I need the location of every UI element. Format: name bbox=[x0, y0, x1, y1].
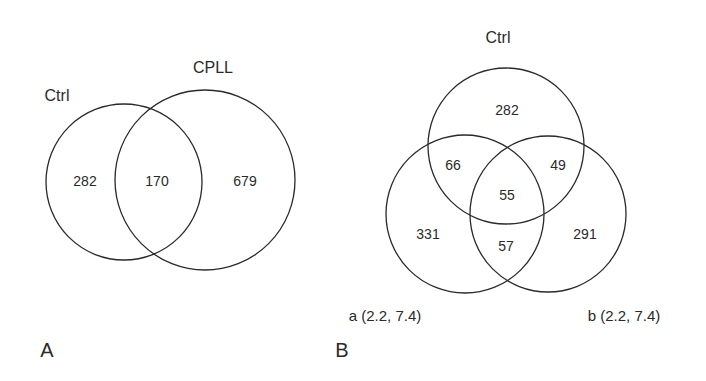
region-ctrl-b: 49 bbox=[550, 157, 566, 173]
set-label-cpll: CPLL bbox=[193, 59, 233, 77]
region-b-only: 291 bbox=[573, 226, 596, 242]
set-label-b: b (2.2, 7.4) bbox=[588, 307, 661, 324]
region-ctrl-a-b: 55 bbox=[499, 187, 515, 203]
region-a-only: 331 bbox=[416, 226, 439, 242]
region-ctrl-only-b: 282 bbox=[495, 102, 518, 118]
set-label-a: a (2.2, 7.4) bbox=[349, 307, 422, 324]
b-circle bbox=[470, 136, 626, 292]
set-label-ctrl-b: Ctrl bbox=[486, 29, 511, 47]
region-ctrl-only-a: 282 bbox=[73, 173, 96, 189]
a-circle bbox=[386, 135, 544, 293]
panel-letter-b: B bbox=[335, 339, 348, 362]
panel-letter-a: A bbox=[40, 339, 53, 362]
region-ctrl-a: 66 bbox=[445, 157, 461, 173]
region-a-b: 57 bbox=[498, 238, 514, 254]
region-cpll-only: 679 bbox=[233, 173, 256, 189]
ctrl-circle-a bbox=[46, 104, 202, 260]
set-label-ctrl-a: Ctrl bbox=[45, 87, 70, 105]
cpll-circle bbox=[115, 90, 295, 270]
region-ctrl-cpll: 170 bbox=[145, 173, 168, 189]
venn-diagram-canvas bbox=[0, 0, 706, 381]
